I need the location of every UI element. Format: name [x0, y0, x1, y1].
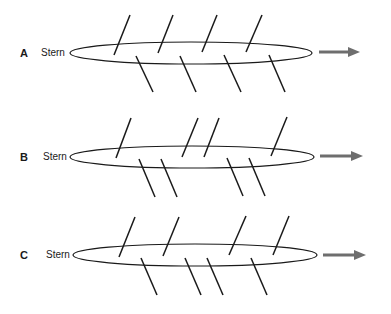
oar: [224, 55, 241, 92]
oar: [158, 15, 173, 53]
arrow-head-icon: [351, 151, 363, 161]
oar: [227, 158, 243, 196]
oar: [182, 118, 198, 157]
arrow-head-icon: [348, 47, 360, 57]
panel-label: B: [20, 151, 28, 163]
panel-label: A: [20, 47, 28, 59]
oar: [229, 216, 246, 255]
oar: [119, 217, 135, 257]
arrow-head-icon: [354, 250, 366, 260]
oar: [136, 56, 153, 92]
rowing-patterns-diagram: A Stern B Stern C Stern: [0, 0, 391, 314]
panel-c: C Stern: [20, 216, 366, 295]
oar: [139, 159, 155, 197]
stern-label: Stern: [43, 151, 67, 162]
oar: [141, 258, 157, 295]
boat-hull: [70, 42, 312, 64]
stern-label: Stern: [46, 249, 70, 260]
oar: [161, 159, 177, 197]
oar: [246, 15, 262, 52]
oar: [249, 158, 265, 196]
oar: [207, 258, 223, 295]
oar: [163, 217, 179, 256]
oar: [273, 216, 289, 255]
panel-a: A Stern: [20, 15, 360, 92]
stern-label: Stern: [41, 47, 65, 58]
oar: [116, 118, 131, 158]
boat-hull: [70, 146, 314, 168]
oar: [204, 118, 219, 157]
panel-b: B Stern: [20, 117, 363, 197]
oar: [185, 258, 201, 295]
oar: [202, 15, 217, 52]
panel-label: C: [20, 249, 28, 261]
oar: [180, 56, 196, 92]
boat-hull: [73, 244, 317, 266]
oar: [114, 15, 130, 55]
